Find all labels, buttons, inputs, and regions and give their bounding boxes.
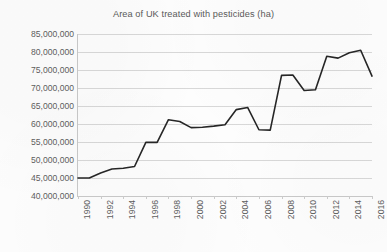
x-axis-tick-label: 2014 <box>353 200 363 219</box>
x-axis-tick <box>78 196 79 199</box>
x-axis-tick <box>214 196 215 199</box>
x-axis-tick-label: 1994 <box>127 200 137 219</box>
x-axis-tick-label: 2008 <box>286 200 296 219</box>
x-axis-tick-label: 2000 <box>195 200 205 219</box>
x-axis-tick <box>236 196 237 199</box>
x-axis-tick <box>282 196 283 199</box>
x-axis-tick-label: 1992 <box>105 200 115 219</box>
x-axis-tick <box>101 196 102 199</box>
x-axis-tick <box>259 196 260 199</box>
x-axis-tick-label: 2012 <box>331 200 341 219</box>
x-axis-tick <box>327 196 328 199</box>
x-axis-tick <box>372 196 373 199</box>
chart-container: Area of UK treated with pesticides (ha) … <box>0 0 387 252</box>
x-axis-tick <box>191 196 192 199</box>
x-axis-tick-label: 2010 <box>308 200 318 219</box>
x-axis-tick <box>168 196 169 199</box>
x-axis-tick-label: 1998 <box>172 200 182 219</box>
x-axis-tick-label: 1990 <box>82 200 92 219</box>
x-axis-tick <box>123 196 124 199</box>
x-axis-tick <box>349 196 350 199</box>
x-axis-tick-label: 2016 <box>376 200 386 219</box>
x-axis-tick <box>146 196 147 199</box>
x-axis-tick-label: 2004 <box>240 200 250 219</box>
x-axis-tick-label: 2006 <box>263 200 273 219</box>
x-axis-tick-label: 1996 <box>150 200 160 219</box>
x-axis-tick <box>304 196 305 199</box>
x-axis-tick-label: 2002 <box>218 200 228 219</box>
x-axis: 1990199219941996199820002002200420062008… <box>0 0 387 252</box>
